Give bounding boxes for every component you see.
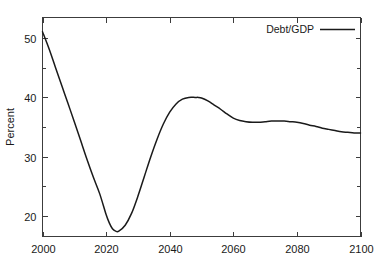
x-tick-label-2100: 2100 <box>349 243 373 255</box>
debt-to-gdp-line-chart: 200020202040206020802100 20304050 Percen… <box>0 0 384 269</box>
y-tick-label-40: 40 <box>24 92 36 104</box>
x-tick-label-2020: 2020 <box>94 243 118 255</box>
x-tick-label-2040: 2040 <box>158 243 182 255</box>
legend-label-debt-gdp: Debt/GDP <box>266 23 314 35</box>
x-tick-label-2000: 2000 <box>31 243 55 255</box>
x-tick-label-2060: 2060 <box>221 243 245 255</box>
chart-figure: 200020202040206020802100 20304050 Percen… <box>0 0 384 269</box>
y-tick-label-50: 50 <box>24 33 36 45</box>
x-tick-label-2080: 2080 <box>285 243 309 255</box>
y-axis-title: Percent <box>4 108 16 146</box>
y-tick-label-30: 30 <box>24 152 36 164</box>
y-tick-label-20: 20 <box>24 211 36 223</box>
chart-background <box>0 0 384 269</box>
